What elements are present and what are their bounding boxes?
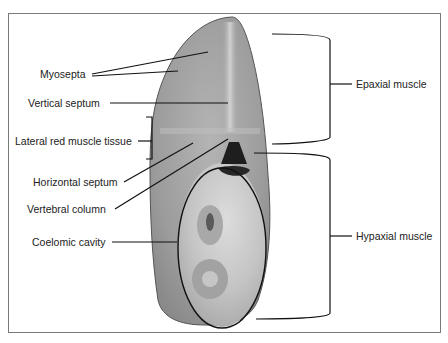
vertical-septum-band — [222, 22, 238, 132]
coelomic-cavity-region — [178, 163, 266, 327]
label-lateral-red-muscle-tissue: Lateral red muscle tissue — [15, 135, 132, 147]
label-horizontal-septum: Horizontal septum — [33, 176, 118, 188]
horizontal-septum-band — [160, 128, 260, 134]
label-myosepta: Myosepta — [40, 68, 86, 80]
label-coelomic-cavity: Coelomic cavity — [32, 236, 106, 248]
brackets-right — [254, 34, 352, 319]
fish-cross-section-diagram: Myosepta Vertical septum Lateral red mus… — [0, 0, 448, 343]
label-vertebral-column: Vertebral column — [27, 203, 106, 215]
label-hypaxial-muscle: Hypaxial muscle — [356, 230, 433, 242]
organ-upper-dark — [206, 213, 214, 231]
organ-lower-core — [202, 271, 218, 287]
label-vertical-septum: Vertical septum — [28, 97, 100, 109]
label-epaxial-muscle: Epaxial muscle — [356, 78, 427, 90]
